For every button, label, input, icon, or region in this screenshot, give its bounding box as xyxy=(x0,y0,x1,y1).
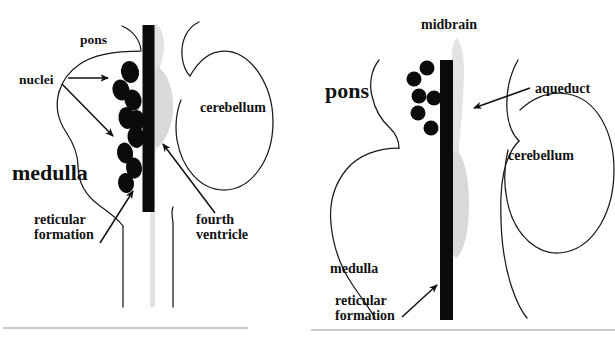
nucleus xyxy=(412,89,427,104)
label-pons-right: pons xyxy=(325,78,369,103)
figure-canvas: pons nuclei medulla reticular formation … xyxy=(0,0,615,338)
label-medulla-left: medulla xyxy=(12,160,88,185)
label-midbrain: midbrain xyxy=(421,17,477,32)
label-fourth-ventricle-line2: ventricle xyxy=(196,227,248,242)
label-medulla-right: medulla xyxy=(330,261,378,276)
nucleus xyxy=(420,61,435,76)
label-aqueduct: aqueduct xyxy=(535,81,591,96)
label-reticular-formation-left-line2: formation xyxy=(34,227,94,242)
label-reticular-formation-right-line1: reticular xyxy=(335,293,387,308)
label-cerebellum-right: cerebellum xyxy=(508,148,574,163)
reticular-formation-bar xyxy=(440,60,453,320)
canvas-background xyxy=(0,0,615,338)
label-cerebellum-left: cerebellum xyxy=(200,100,266,115)
nucleus xyxy=(427,91,442,106)
nucleus xyxy=(424,121,439,136)
nucleus xyxy=(411,106,426,121)
label-reticular-formation-left-line1: reticular xyxy=(34,212,86,227)
nucleus xyxy=(407,72,422,87)
label-fourth-ventricle-line1: fourth xyxy=(196,212,234,227)
label-pons-left: pons xyxy=(80,32,107,47)
label-reticular-formation-right-line2: formation xyxy=(335,308,395,323)
brainstem-figure: pons nuclei medulla reticular formation … xyxy=(0,0,615,338)
label-nuclei-left: nuclei xyxy=(19,72,54,87)
